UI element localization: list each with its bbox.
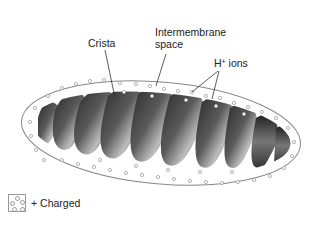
h-ions-label-superscript: + [222,58,226,65]
crista-label: Crista [88,37,115,49]
charged-swatch-icon [8,194,26,212]
intermembrane-label-line2: space [155,38,226,50]
intermembrane-label-line1: Intermembrane [155,26,226,38]
legend: + Charged [8,194,80,212]
h-ions-label-rest: ions [226,57,248,69]
h-ions-label-base: H [214,57,222,69]
h-ions-label: H+ ions [214,57,248,69]
legend-label: + Charged [31,197,80,209]
intermembrane-space-label: Intermembrane space [155,26,226,50]
